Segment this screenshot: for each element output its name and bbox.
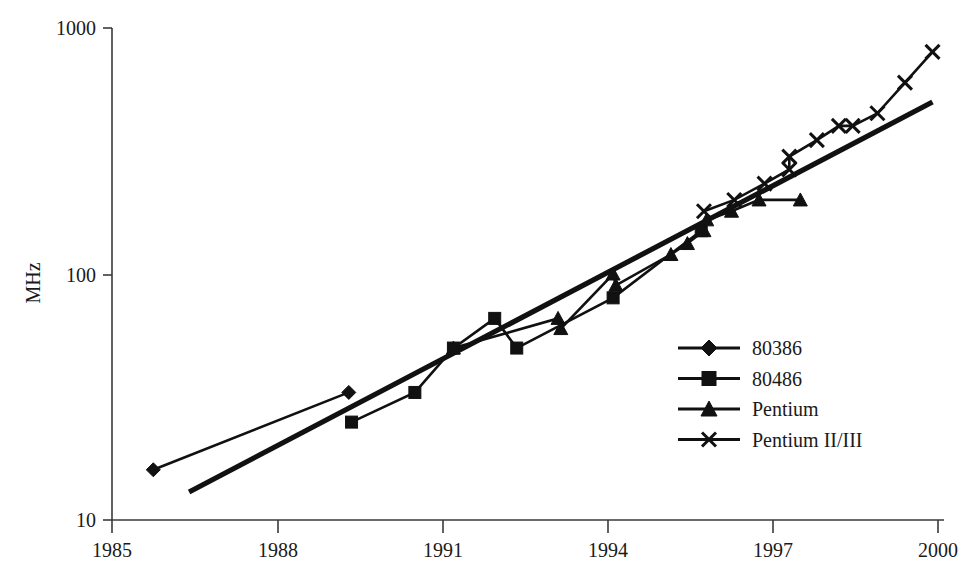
chart-canvas: 1000 100 10 MHz 1985 1988 1991 1994 1997… [0, 0, 962, 579]
marker-diamond [146, 463, 160, 477]
chart-figure: 1000 100 10 MHz 1985 1988 1991 1994 1997… [0, 0, 962, 579]
marker-square [489, 312, 501, 324]
marker-x [697, 204, 711, 218]
y-tick-label-100: 100 [66, 264, 96, 286]
marker-square [346, 416, 358, 428]
legend-label: 80486 [752, 368, 802, 390]
legend-label: Pentium [752, 398, 819, 420]
legend-label: 80386 [752, 337, 802, 359]
legend-item-80486[interactable]: 80486 [678, 368, 802, 390]
y-tick-label-10: 10 [76, 509, 96, 531]
series-pentium-ii-iii [697, 45, 940, 218]
marker-x [870, 106, 884, 120]
series-80386 [146, 385, 355, 476]
marker-triangle [551, 311, 565, 324]
chart-legend: 8038680486PentiumPentium II/III [678, 337, 863, 451]
marker-x [898, 76, 912, 90]
marker-x [925, 45, 939, 59]
marker-square [702, 372, 716, 386]
marker-square [511, 342, 523, 354]
x-tick-label-1991: 1991 [423, 539, 463, 561]
legend-label: Pentium II/III [752, 429, 863, 451]
legend-item-pentium-ii-iii[interactable]: Pentium II/III [678, 429, 863, 451]
marker-x [810, 133, 824, 147]
x-tick-label-2000: 2000 [918, 539, 958, 561]
x-tick-label-1985: 1985 [92, 539, 132, 561]
legend-item-80386[interactable]: 80386 [678, 337, 802, 359]
marker-square [409, 386, 421, 398]
marker-diamond [342, 385, 356, 399]
x-tick-label-1994: 1994 [588, 539, 628, 561]
y-axis-title: MHz [22, 262, 44, 303]
marker-square [607, 292, 619, 304]
x-tick-label-1997: 1997 [753, 539, 793, 561]
legend-item-pentium[interactable]: Pentium [678, 398, 819, 420]
y-tick-label-1000: 1000 [56, 17, 96, 39]
marker-diamond [701, 340, 717, 356]
x-tick-label-1988: 1988 [258, 539, 298, 561]
series-lines [146, 45, 939, 477]
